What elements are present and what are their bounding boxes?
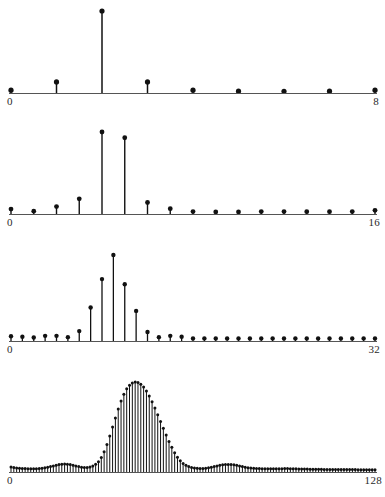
stem-marker	[77, 329, 81, 333]
stem-marker	[134, 309, 138, 313]
stem-marker	[46, 466, 49, 469]
stem-series	[9, 130, 378, 215]
stem-marker	[153, 407, 156, 410]
stem-marker	[94, 463, 97, 466]
stem-marker	[134, 381, 137, 384]
stem-marker	[15, 466, 18, 469]
stem-marker	[373, 208, 378, 213]
stem-marker	[89, 466, 92, 469]
stem-marker	[292, 467, 295, 470]
stem-marker	[371, 468, 374, 471]
stem-marker	[293, 336, 297, 340]
stem-marker	[184, 464, 187, 467]
stem-marker	[210, 466, 213, 469]
stem-marker	[156, 413, 159, 416]
stem-marker	[54, 204, 59, 209]
stem-marker	[236, 336, 240, 340]
stem-marker	[230, 463, 233, 466]
stem-marker	[227, 463, 230, 466]
stem-marker	[77, 465, 80, 468]
stem-marker	[66, 335, 70, 339]
stem-marker	[168, 334, 172, 338]
stem-marker	[173, 451, 176, 454]
stem-marker	[88, 305, 92, 309]
stem-plot-svg-32	[0, 247, 385, 367]
stem-marker	[283, 467, 286, 470]
stem-marker	[359, 468, 362, 471]
stem-marker	[114, 417, 117, 420]
dft-magnitude-figure: 0 8 0 16 0 32 0 128	[0, 0, 385, 497]
stem-marker	[111, 426, 114, 429]
stem-plot-svg-8	[0, 0, 385, 120]
stem-marker	[327, 336, 331, 340]
stem-marker	[342, 468, 345, 471]
stem-marker	[179, 335, 183, 339]
stem-marker	[259, 209, 264, 214]
stem-marker	[244, 466, 247, 469]
stem-marker	[258, 467, 261, 470]
stem-marker	[326, 468, 329, 471]
stem-marker	[103, 450, 106, 453]
stem-marker	[136, 381, 139, 384]
stem-marker	[294, 467, 297, 470]
stem-marker	[362, 468, 365, 471]
stem-marker	[311, 468, 314, 471]
stem-marker	[297, 467, 300, 470]
stem-marker	[270, 336, 274, 340]
stem-marker	[148, 394, 151, 397]
stem-marker	[196, 467, 199, 470]
stem-marker	[199, 467, 202, 470]
stem-marker	[83, 466, 86, 469]
stem-marker	[357, 468, 360, 471]
stem-series	[9, 381, 377, 473]
stem-marker	[151, 400, 154, 403]
stem-marker	[374, 468, 377, 471]
stem-marker	[145, 79, 150, 84]
stem-marker	[282, 336, 286, 340]
stem-plot-panel-128: 0 128	[0, 374, 385, 497]
stem-marker	[320, 468, 323, 471]
axis-end-label-8: 8	[373, 96, 379, 107]
stem-marker	[139, 383, 142, 386]
stem-marker	[236, 210, 241, 215]
stem-marker	[128, 384, 131, 387]
stem-marker	[351, 468, 354, 471]
stem-marker	[54, 79, 59, 84]
stem-marker	[10, 466, 13, 469]
stem-marker	[111, 253, 115, 257]
stem-marker	[179, 459, 182, 462]
stem-marker	[99, 8, 104, 13]
stem-marker	[190, 466, 193, 469]
axis-start-label-32: 0	[7, 344, 13, 355]
stem-marker	[331, 468, 334, 471]
stem-series	[8, 8, 377, 94]
stem-plot-svg-128	[0, 374, 385, 497]
stem-marker	[334, 468, 337, 471]
stem-marker	[176, 456, 179, 459]
stem-marker	[328, 468, 331, 471]
stem-marker	[57, 463, 60, 466]
stem-marker	[249, 467, 252, 470]
stem-marker	[202, 336, 206, 340]
stem-marker	[263, 467, 266, 470]
stem-marker	[125, 387, 128, 390]
stem-marker	[43, 466, 46, 469]
stem-marker	[35, 467, 38, 470]
stem-marker	[323, 468, 326, 471]
stem-marker	[32, 467, 35, 470]
stem-marker	[131, 381, 134, 384]
stem-plot-panel-8: 0 8	[0, 0, 385, 120]
stem-marker	[86, 466, 89, 469]
stem-marker	[300, 468, 303, 471]
stem-marker	[368, 468, 371, 471]
stem-marker	[63, 463, 66, 466]
stem-marker	[350, 336, 354, 340]
axis-start-label-128: 0	[7, 475, 13, 486]
stem-marker	[97, 460, 100, 463]
axis-start-label-16: 0	[7, 217, 13, 228]
stem-marker	[282, 209, 287, 214]
stem-marker	[122, 393, 125, 396]
stem-marker	[108, 435, 111, 438]
stem-marker	[55, 464, 58, 467]
stem-marker	[303, 468, 306, 471]
